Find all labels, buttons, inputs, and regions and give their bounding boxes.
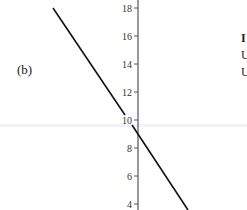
y-tick-label: 10 (122, 115, 132, 126)
panel-label: (b) (17, 62, 32, 78)
y-tick-label: 14 (122, 59, 132, 70)
y-tick-label: 16 (122, 31, 132, 42)
y-tick-label: 12 (122, 87, 132, 98)
side-text-line-3: U (241, 65, 247, 79)
data-line (53, 8, 188, 210)
side-text-line-1: I (241, 31, 246, 45)
y-tick-label: 4 (127, 199, 132, 210)
side-text-line-2: U (241, 48, 247, 62)
chart-plot: 4681012141618 (0, 0, 247, 210)
y-tick-label: 6 (127, 171, 132, 182)
y-axis: 4681012141618 (122, 0, 138, 210)
y-tick-label: 18 (122, 3, 132, 14)
y-tick-label: 8 (127, 143, 132, 154)
